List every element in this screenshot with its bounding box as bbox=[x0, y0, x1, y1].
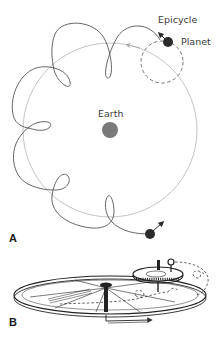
panel-b-label: B bbox=[9, 316, 17, 328]
deferent-wheel bbox=[14, 276, 206, 314]
earth-label: Earth bbox=[98, 108, 123, 119]
planet-peg bbox=[168, 259, 174, 265]
panel-b bbox=[14, 259, 208, 323]
epicycle-label: Epicycle bbox=[158, 14, 197, 25]
central-axle bbox=[104, 284, 108, 312]
ptolemaic-epicycle-diagram: Epicycle Planet Earth A bbox=[0, 0, 220, 339]
planet-end-arrow-icon bbox=[153, 223, 162, 231]
retrograde-path bbox=[12, 23, 160, 234]
panel-a: Epicycle Planet Earth A bbox=[9, 14, 211, 244]
epicycle-circle bbox=[141, 41, 183, 83]
planet-label: Planet bbox=[181, 36, 211, 47]
panel-a-label: A bbox=[9, 232, 17, 244]
planet-dot bbox=[163, 37, 173, 47]
earth-dot bbox=[102, 122, 118, 138]
deferent-arrow-icon bbox=[128, 45, 140, 48]
